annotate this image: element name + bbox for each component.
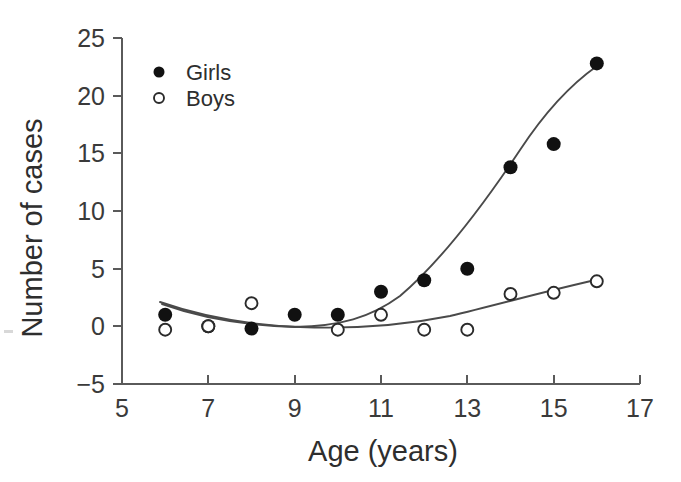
y-ticks-group (113, 96, 122, 384)
legend-marker-girls-icon (154, 67, 165, 78)
x-tick-label-7: 7 (201, 394, 215, 422)
x-tick-label-17: 17 (626, 394, 654, 422)
legend-marker-boys-icon (154, 93, 164, 103)
boys-series-points (159, 275, 603, 335)
x-tick-label-13: 13 (453, 394, 481, 422)
chart-figure: 25 20 15 10 5 0 −5 5 7 9 11 13 15 17 A (0, 0, 681, 482)
legend-label-girls: Girls (186, 60, 231, 85)
data-point-boys-age14 (505, 288, 517, 300)
data-point-boys-age8 (246, 297, 258, 309)
data-point-boys-age11 (375, 309, 387, 321)
data-point-girls-age6 (158, 308, 172, 322)
data-point-girls-age8 (245, 322, 259, 336)
x-tick-label-9: 9 (288, 394, 302, 422)
scatter-plot-svg: 25 20 15 10 5 0 −5 5 7 9 11 13 15 17 A (0, 0, 681, 482)
chart-legend: Girls Boys (154, 60, 235, 111)
data-point-boys-age15 (548, 287, 560, 299)
data-point-boys-age16 (591, 275, 603, 287)
x-ticks-group (122, 375, 554, 384)
x-tick-label-11: 11 (368, 394, 394, 422)
x-tick-labels: 5 7 9 11 13 15 17 (115, 394, 654, 422)
y-axis-title: Number of cases (16, 118, 48, 337)
y-tick-label-0: 0 (91, 312, 105, 340)
data-point-girls-age13 (460, 262, 474, 276)
data-point-boys-age13 (461, 324, 473, 336)
data-point-boys-age7 (202, 320, 214, 332)
data-point-girls-age11 (374, 285, 388, 299)
x-tick-label-15: 15 (540, 394, 568, 422)
data-point-girls-age10 (331, 308, 345, 322)
y-tick-labels: 25 20 15 10 5 0 −5 (76, 24, 105, 398)
y-tick-label-15: 15 (77, 139, 105, 167)
y-tick-label-5: 5 (91, 255, 105, 283)
y-tick-label-25: 25 (77, 24, 105, 52)
x-axis-title: Age (years) (308, 435, 458, 467)
y-tick-label-minus5: −5 (76, 370, 105, 398)
data-point-girls-age12 (417, 273, 431, 287)
y-tick-label-20: 20 (77, 82, 105, 110)
data-point-girls-age9 (288, 308, 302, 322)
data-point-boys-age12 (418, 324, 430, 336)
x-tick-label-5: 5 (115, 394, 129, 422)
scan-artifact-mark (4, 330, 13, 333)
legend-label-boys: Boys (186, 86, 235, 111)
data-point-boys-age6 (159, 324, 171, 336)
data-point-girls-age15 (547, 137, 561, 151)
data-point-boys-age10 (332, 324, 344, 336)
data-point-girls-age16 (590, 56, 604, 70)
y-tick-label-10: 10 (77, 197, 105, 225)
data-point-girls-age14 (504, 160, 518, 174)
